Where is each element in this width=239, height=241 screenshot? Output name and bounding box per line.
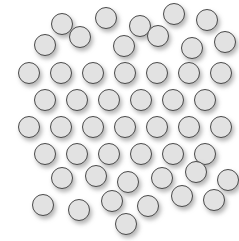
scatter-point (137, 195, 159, 217)
scatter-point (130, 89, 152, 111)
scatter-point (50, 62, 72, 84)
scatter-point (34, 143, 56, 165)
scatter-point (217, 169, 239, 191)
scatter-point (196, 9, 218, 31)
scatter-point (113, 35, 135, 57)
scatter-point (203, 189, 225, 211)
scatter-point (18, 116, 40, 138)
scatter-point (101, 190, 123, 212)
scatter-point (210, 116, 232, 138)
scatter-point (163, 3, 185, 25)
scatter-point (117, 171, 139, 193)
scatter-point (162, 143, 184, 165)
scatter-point (82, 62, 104, 84)
scatter-point (32, 194, 54, 216)
scatter-point (115, 213, 137, 235)
scatter-point (194, 89, 216, 111)
scatter-point (82, 116, 104, 138)
scatter-point (95, 7, 117, 29)
scatter-point (18, 62, 40, 84)
scatter-point (114, 116, 136, 138)
scatter-point (98, 143, 120, 165)
scatter-point (178, 62, 200, 84)
scatter-point (66, 89, 88, 111)
scatter-plot-canvas (0, 0, 239, 241)
scatter-point (50, 116, 72, 138)
scatter-point (162, 89, 184, 111)
scatter-point (146, 62, 168, 84)
scatter-point (114, 62, 136, 84)
scatter-point (146, 116, 168, 138)
scatter-point (181, 37, 203, 59)
scatter-point (210, 62, 232, 84)
scatter-point (68, 199, 90, 221)
scatter-point (130, 143, 152, 165)
scatter-point (171, 185, 193, 207)
scatter-point (34, 89, 56, 111)
scatter-point (66, 143, 88, 165)
scatter-point (85, 165, 107, 187)
scatter-point (147, 25, 169, 47)
scatter-point (151, 167, 173, 189)
scatter-point (98, 89, 120, 111)
scatter-point (214, 31, 236, 53)
scatter-point (185, 161, 207, 183)
scatter-point (51, 167, 73, 189)
scatter-point (34, 34, 56, 56)
scatter-point (178, 116, 200, 138)
scatter-point (69, 26, 91, 48)
